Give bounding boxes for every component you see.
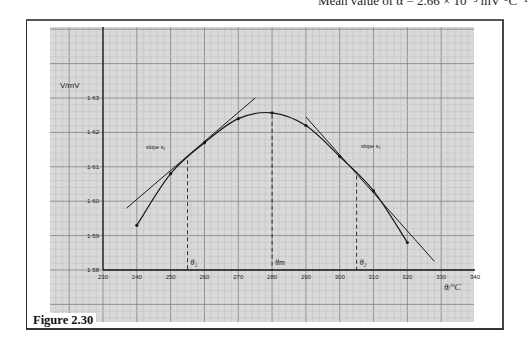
x-tick-label: 300 [335,274,346,280]
data-point [372,189,375,192]
data-point [237,117,240,120]
x-tick-label: 270 [233,274,244,280]
data-point [406,241,409,244]
data-point [270,111,273,114]
slope-s2-label: slope s₂ [361,143,381,149]
figure-caption: Figure 2.30 [33,313,96,328]
data-point [338,155,341,158]
data-point [169,172,172,175]
x-tick-label: 340 [470,274,481,280]
marker-label: θ₁ [191,258,198,267]
y-axis-label: V/mV [60,81,80,90]
marker-label: θ₂ [360,258,367,267]
y-tick-label: 1·58 [87,267,100,273]
x-tick-label: 230 [98,274,109,280]
slope-s1-label: slope s₁ [146,144,165,150]
y-tick-label: 1·61 [87,164,100,170]
y-tick-label: 1·59 [87,233,100,239]
marker-label: θm [275,258,285,267]
x-tick-label: 310 [369,274,380,280]
x-tick-label: 260 [199,274,210,280]
tangent-line [306,117,435,261]
x-tick-label: 290 [301,274,312,280]
x-tick-label: 330 [436,274,447,280]
x-tick-label: 280 [267,274,278,280]
data-point [203,141,206,144]
x-axis-label: θ/°C [444,282,462,292]
y-tick-label: 1·60 [87,198,100,204]
data-point [135,224,138,227]
x-tick-label: 250 [166,274,177,280]
y-tick-label: 1·62 [87,129,100,135]
y-tick-label: 1·63 [87,95,100,101]
x-tick-label: 240 [132,274,143,280]
x-tick-label: 320 [402,274,413,280]
data-point [304,124,307,127]
